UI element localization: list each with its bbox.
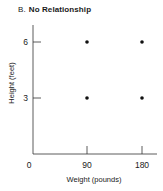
data-point <box>140 96 144 100</box>
data-point <box>85 96 89 100</box>
x-axis-label: Weight (pounds) <box>67 175 122 184</box>
data-point <box>140 40 144 44</box>
x-tick-label-0: 0 <box>27 160 32 170</box>
y-axis-label: Height (feet) <box>7 62 16 104</box>
y-tick-label-6: 6 <box>23 37 28 47</box>
y-tick-label-3: 3 <box>23 93 28 103</box>
x-tick-label-180: 180 <box>135 160 149 170</box>
data-point <box>85 40 89 44</box>
x-tick-label-90: 90 <box>82 160 92 170</box>
scatter-plot: 6 3 0 90 180 Weight (pounds) Height (fee… <box>0 0 163 191</box>
data-points <box>85 40 144 100</box>
